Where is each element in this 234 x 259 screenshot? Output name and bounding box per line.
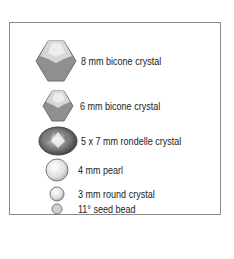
legend-label: 3 mm round crystal bbox=[78, 188, 155, 200]
legend-item: 3 mm round crystal bbox=[49, 186, 172, 202]
legend-label: 11° seed bead bbox=[78, 203, 136, 215]
legend-item: 8 mm bicone crystal bbox=[35, 40, 179, 82]
legend-item: 11° seed bead bbox=[51, 203, 148, 215]
bicone-crystal-large-icon bbox=[35, 40, 77, 82]
seed-bead-icon bbox=[51, 203, 63, 215]
legend-label: 6 mm bicone crystal bbox=[80, 100, 160, 112]
legend-item: 5 x 7 mm rondelle crystal bbox=[38, 126, 203, 156]
legend-label: 8 mm bicone crystal bbox=[81, 55, 161, 67]
rondelle-crystal-icon bbox=[38, 126, 78, 156]
bicone-crystal-small-icon bbox=[42, 90, 74, 122]
legend-label: 5 x 7 mm rondelle crystal bbox=[81, 135, 181, 147]
legend-item: 4 mm pearl bbox=[45, 158, 133, 182]
pearl-icon bbox=[45, 158, 69, 182]
legend-label: 4 mm pearl bbox=[78, 164, 123, 176]
bead-legend: 8 mm bicone crystal 6 mm bicone crystal bbox=[9, 22, 221, 215]
legend-item: 6 mm bicone crystal bbox=[42, 90, 178, 122]
round-crystal-icon bbox=[49, 186, 65, 202]
